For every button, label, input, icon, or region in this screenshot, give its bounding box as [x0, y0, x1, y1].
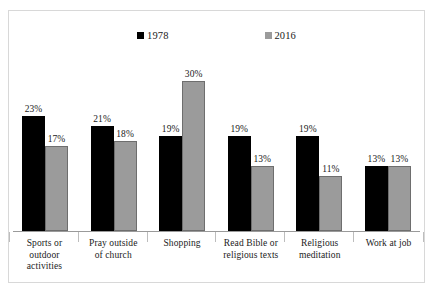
bar-wrap-2016: 13% — [251, 51, 274, 231]
chart-legend: 1978 2016 — [9, 27, 424, 43]
bar-value-label: 11% — [322, 164, 339, 175]
category-label-3: Read Bible or religious texts — [216, 232, 285, 282]
category-axis: Sports or outdoor activities Pray outsid… — [10, 232, 423, 282]
bar-value-label: 13% — [391, 154, 409, 165]
bar-2016 — [182, 81, 205, 231]
bar-1978 — [365, 166, 388, 231]
bar-2016 — [114, 141, 137, 231]
legend-swatch-2016 — [265, 32, 272, 39]
bar-value-label: 17% — [48, 134, 66, 145]
category-line: of church — [79, 250, 148, 262]
bar-groups: 23% 17% 21% 18% — [18, 51, 415, 231]
bar-value-label: 13% — [368, 154, 386, 165]
bar-value-label: 30% — [185, 69, 203, 80]
category-label-1: Pray outside of church — [79, 232, 148, 282]
legend-item-1978: 1978 — [137, 30, 168, 41]
axis-tick — [284, 232, 285, 242]
bar-1978 — [159, 136, 182, 231]
category-line: Pray outside — [79, 238, 148, 250]
bar-2016 — [45, 146, 68, 231]
bar-group: 19% 13% — [224, 51, 278, 231]
bar-value-label: 23% — [25, 104, 43, 115]
category-label-5: Work at job — [354, 232, 423, 282]
bar-value-label: 19% — [162, 124, 180, 135]
bar-wrap-1978: 23% — [22, 51, 45, 231]
category-line: activities — [10, 261, 79, 273]
bar-1978 — [228, 136, 251, 231]
axis-tick — [9, 232, 10, 242]
bar-wrap-2016: 30% — [182, 51, 205, 231]
bar-wrap-1978: 21% — [91, 51, 114, 231]
bar-1978 — [91, 126, 114, 231]
category-line: religious texts — [216, 250, 285, 262]
bar-value-label: 19% — [230, 124, 248, 135]
bar-2016 — [251, 166, 274, 231]
bar-value-label: 13% — [253, 154, 271, 165]
axis-tick — [215, 232, 216, 242]
bar-wrap-2016: 11% — [319, 51, 342, 231]
category-line: outdoor — [10, 250, 79, 262]
axis-tick — [78, 232, 79, 242]
legend-label-1978: 1978 — [147, 30, 168, 41]
category-line: Religious — [285, 238, 354, 250]
bar-wrap-1978: 19% — [228, 51, 251, 231]
legend-item-2016: 2016 — [265, 30, 296, 41]
bar-value-label: 19% — [299, 124, 317, 135]
bar-wrap-2016: 17% — [45, 51, 68, 231]
bar-1978 — [22, 116, 45, 231]
category-line: Shopping — [148, 238, 217, 250]
axis-tick — [147, 232, 148, 242]
category-line: Work at job — [354, 238, 423, 250]
bar-2016 — [319, 176, 342, 231]
bar-wrap-1978: 19% — [159, 51, 182, 231]
plot-area: 23% 17% 21% 18% — [10, 51, 423, 232]
bar-group: 19% 11% — [292, 51, 346, 231]
bar-wrap-1978: 19% — [296, 51, 319, 231]
bar-chart: 1978 2016 23% 17% — [8, 10, 425, 283]
bar-group: 13% 13% — [361, 51, 415, 231]
bar-group: 21% 18% — [87, 51, 141, 231]
legend-swatch-1978 — [137, 32, 144, 39]
category-label-2: Shopping — [148, 232, 217, 282]
bar-value-label: 18% — [116, 129, 134, 140]
bar-1978 — [296, 136, 319, 231]
category-line: Read Bible or — [216, 238, 285, 250]
bar-wrap-1978: 13% — [365, 51, 388, 231]
axis-tick — [353, 232, 354, 242]
bar-wrap-2016: 13% — [388, 51, 411, 231]
bar-group: 23% 17% — [18, 51, 72, 231]
bar-wrap-2016: 18% — [114, 51, 137, 231]
bar-2016 — [388, 166, 411, 231]
bar-value-label: 21% — [93, 114, 111, 125]
category-line: Sports or — [10, 238, 79, 250]
category-label-4: Religious meditation — [285, 232, 354, 282]
legend-label-2016: 2016 — [275, 30, 296, 41]
category-line: meditation — [285, 250, 354, 262]
category-label-0: Sports or outdoor activities — [10, 232, 79, 282]
bar-group: 19% 30% — [155, 51, 209, 231]
